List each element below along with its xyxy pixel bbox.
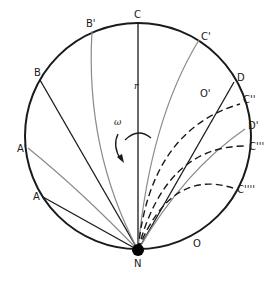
label-d: D <box>237 72 245 83</box>
label-r: r <box>134 81 139 91</box>
label-d1: D' <box>248 120 258 131</box>
dashed-curve-c4 <box>138 184 233 250</box>
label-omega: ω <box>114 117 122 127</box>
chord-nd <box>138 82 234 250</box>
label-o: O <box>193 238 201 249</box>
label-b: B <box>34 67 41 78</box>
label-c: C <box>134 9 141 20</box>
curve-nc1 <box>138 40 199 250</box>
label-b1: B' <box>86 18 96 29</box>
chord-na <box>43 197 138 250</box>
label-n: N <box>134 258 141 269</box>
label-c4: C'''' <box>237 184 255 195</box>
rotation-diagram: C C' D C'' D' C''' C'''' B' B A' A O' O … <box>0 0 276 281</box>
label-c1: C' <box>201 31 211 42</box>
label-c3: C''' <box>249 141 264 152</box>
label-a: A <box>33 191 40 202</box>
dashed-curve-c2 <box>138 104 240 250</box>
label-o-prime: O' <box>200 88 211 99</box>
label-a1: A' <box>17 143 27 154</box>
chord-nb <box>40 80 138 250</box>
curve-nb1 <box>91 31 138 250</box>
label-c2: C'' <box>243 94 255 105</box>
pole-point <box>132 244 144 256</box>
